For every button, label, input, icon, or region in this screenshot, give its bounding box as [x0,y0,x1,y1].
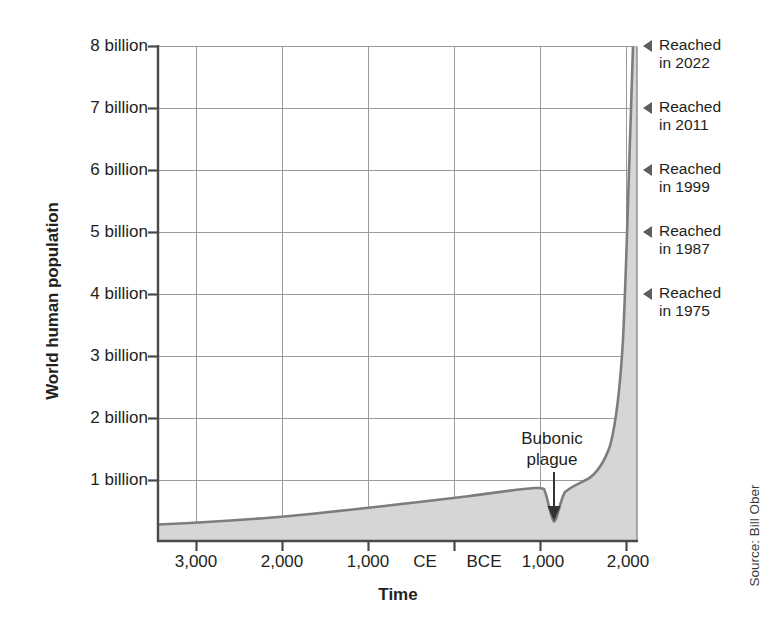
plague-annotation-line2: plague [489,449,615,470]
x-tick-label: 2,000 [261,552,304,571]
y-tick-label: 7 billion [60,98,148,118]
x-tick-marks [197,541,627,551]
reached-1987-marker-icon [643,226,652,238]
y-tick-6-billion: 6 billion [60,160,148,180]
reached-1975-marker-icon [643,288,652,300]
y-tick-3-billion: 3 billion [60,346,148,366]
y-tick-label: 4 billion [60,284,148,304]
y-tick-4-billion: 4 billion [60,284,148,304]
y-tick-2-billion: 2 billion [60,408,148,428]
reached-2011-marker-icon [643,102,652,114]
x-tick-2000-ce: 2,000 [568,552,688,572]
y-tick-5-billion: 5 billion [60,222,148,242]
reached-note-line1: Reached [659,284,775,302]
reached-1999-note: Reached in 1999 [659,160,775,196]
x-tick-label: 2,000 [607,552,650,571]
reached-note-line1: Reached [659,98,775,116]
reached-1987-note: Reached in 1987 [659,222,775,258]
reached-note-line1: Reached [659,222,775,240]
horizontal-gridlines [158,47,637,481]
reached-note-line2: in 2011 [659,116,775,134]
y-tick-label: 1 billion [60,470,148,490]
x-axis-title: Time [158,585,638,605]
reached-1999-marker-icon [643,164,652,176]
reached-note-line1: Reached [659,36,775,54]
reached-2022-marker-icon [643,40,652,52]
y-tick-1-billion: 1 billion [60,470,148,490]
plague-annotation-label: Bubonic plague [489,428,615,470]
x-tick-label: 3,000 [175,552,218,571]
reached-note-line2: in 1987 [659,240,775,258]
reached-note-line2: in 1975 [659,302,775,320]
x-tick-label: 1,000 [522,552,565,571]
y-tick-8-billion: 8 billion [60,36,148,56]
y-tick-marks [148,47,158,481]
reached-1975-note: Reached in 1975 [659,284,775,320]
reached-2022-note: Reached in 2022 [659,36,775,72]
source-credit: Source: Bill Ober [747,446,762,626]
y-tick-label: 6 billion [60,160,148,180]
y-tick-label: 2 billion [60,408,148,428]
reached-note-line2: in 2022 [659,54,775,72]
population-growth-figure: 8 billion 7 billion 6 billion 5 billion … [0,0,778,635]
y-axis-title: World human population [43,156,63,446]
y-tick-label: 3 billion [60,346,148,366]
plague-annotation-line1: Bubonic [489,428,615,449]
y-tick-label: 5 billion [60,222,148,242]
y-tick-7-billion: 7 billion [60,98,148,118]
reached-2011-note: Reached in 2011 [659,98,775,134]
y-tick-label: 8 billion [60,36,148,56]
reached-note-line1: Reached [659,160,775,178]
reached-note-line2: in 1999 [659,178,775,196]
